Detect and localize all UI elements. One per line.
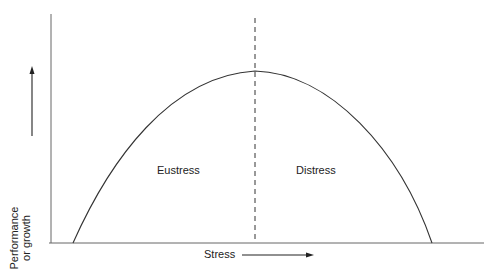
chart-canvas bbox=[0, 0, 499, 274]
region-label-distress: Distress bbox=[296, 164, 336, 176]
y-axis-label-line2: or growth bbox=[20, 193, 32, 274]
x-axis-label: Stress bbox=[204, 248, 235, 260]
x-arrow-icon bbox=[306, 253, 314, 258]
y-axis-label-line1: Performance bbox=[8, 193, 20, 274]
region-label-eustress: Eustress bbox=[157, 164, 200, 176]
y-axis-label: Performance or growth bbox=[8, 193, 32, 274]
performance-curve bbox=[73, 71, 432, 243]
y-arrow-icon bbox=[30, 66, 35, 74]
